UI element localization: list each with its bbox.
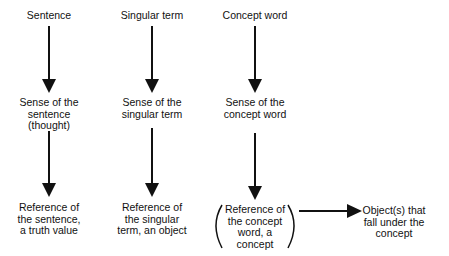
arrow-concept-word-to-sense bbox=[248, 26, 262, 93]
arrow-sense-to-object bbox=[145, 128, 159, 197]
left-parenthesis bbox=[216, 205, 222, 248]
arrow-sentence-to-sense bbox=[42, 26, 56, 93]
arrow-sense-to-truth-value bbox=[42, 131, 56, 197]
arrow-sense-to-concept bbox=[248, 133, 262, 200]
arrow-singular-term-to-sense bbox=[145, 26, 159, 93]
right-parenthesis bbox=[288, 205, 294, 248]
diagram-arrows bbox=[0, 0, 449, 256]
arrow-concept-to-objects bbox=[299, 204, 362, 218]
